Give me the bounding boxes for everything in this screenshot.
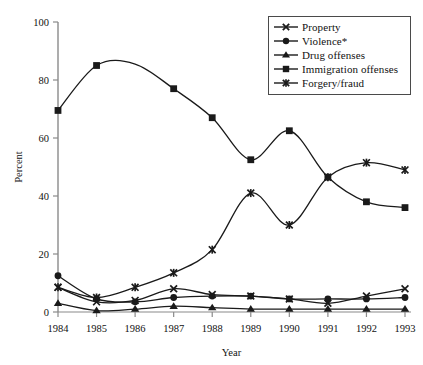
legend-marker-asterisk-icon bbox=[273, 76, 299, 90]
data-point-marker bbox=[55, 272, 62, 279]
legend-item-violence[interactable]: Violence* bbox=[273, 34, 404, 48]
data-point-marker bbox=[324, 296, 331, 303]
x-tick-label: 1993 bbox=[395, 323, 416, 334]
y-tick-label: 0 bbox=[44, 307, 49, 318]
x-tick-label: 1992 bbox=[356, 323, 377, 334]
legend-item-forgery-fraud[interactable]: Forgery/fraud bbox=[273, 76, 404, 90]
data-point-marker bbox=[402, 204, 409, 211]
series-line bbox=[58, 163, 405, 298]
x-tick-label: 1989 bbox=[240, 323, 261, 334]
data-point-marker bbox=[54, 299, 62, 306]
data-point-marker bbox=[363, 296, 370, 303]
x-tick-label: 1991 bbox=[317, 323, 338, 334]
x-tick-label: 1985 bbox=[86, 323, 107, 334]
legend-marker-x-cross-icon bbox=[273, 20, 299, 34]
data-point-marker bbox=[286, 296, 293, 303]
y-tick-label: 100 bbox=[33, 17, 49, 28]
y-tick-label: 60 bbox=[39, 133, 50, 144]
data-point-marker bbox=[93, 62, 100, 69]
data-point-marker bbox=[209, 114, 216, 121]
x-tick-label: 1988 bbox=[202, 323, 223, 334]
legend-item-label: Forgery/fraud bbox=[299, 77, 364, 89]
series-forgery-fraud bbox=[55, 159, 409, 302]
x-tick-label: 1986 bbox=[125, 323, 146, 334]
legend-item-label: Violence* bbox=[299, 35, 347, 47]
data-point-marker bbox=[247, 156, 254, 163]
data-point-marker bbox=[363, 198, 370, 205]
data-point-marker bbox=[402, 294, 409, 301]
data-point-marker bbox=[132, 283, 139, 291]
y-tick-label: 80 bbox=[39, 75, 50, 86]
chart-legend: PropertyViolence*Drug offensesImmigratio… bbox=[268, 16, 411, 95]
y-tick-label: 40 bbox=[39, 191, 50, 202]
data-point-marker bbox=[286, 127, 293, 134]
data-point-marker bbox=[209, 293, 216, 300]
data-point-marker bbox=[170, 294, 177, 301]
data-point-marker bbox=[170, 85, 177, 92]
legend-item-property[interactable]: Property bbox=[273, 20, 404, 34]
series-violence bbox=[55, 272, 409, 305]
data-point-marker bbox=[55, 283, 62, 291]
legend-item-immigration-offenses[interactable]: Immigration offenses bbox=[273, 62, 404, 76]
legend-item-label: Drug offenses bbox=[299, 49, 365, 61]
x-tick-label: 1990 bbox=[279, 323, 300, 334]
legend-item-label: Immigration offenses bbox=[299, 63, 398, 75]
data-point-marker bbox=[247, 293, 254, 300]
series-line bbox=[58, 276, 405, 302]
legend-marker-triangle-icon bbox=[273, 48, 299, 62]
chart-figure: 0204060801001984198519861987198819891990… bbox=[0, 0, 423, 365]
legend-marker-circle-icon bbox=[273, 34, 299, 48]
data-point-marker bbox=[132, 298, 139, 305]
data-point-marker bbox=[170, 269, 177, 277]
x-axis-title: Year bbox=[222, 347, 242, 358]
legend-marker-square-icon bbox=[273, 62, 299, 76]
y-axis-title: Percent bbox=[13, 151, 24, 183]
x-tick-label: 1984 bbox=[48, 323, 70, 334]
legend-item-drug-offenses[interactable]: Drug offenses bbox=[273, 48, 404, 62]
series-line bbox=[58, 303, 405, 311]
data-point-marker bbox=[209, 246, 216, 254]
data-point-marker bbox=[55, 107, 62, 114]
y-tick-label: 20 bbox=[39, 249, 50, 260]
x-tick-label: 1987 bbox=[163, 323, 184, 334]
legend-item-label: Property bbox=[299, 21, 341, 33]
